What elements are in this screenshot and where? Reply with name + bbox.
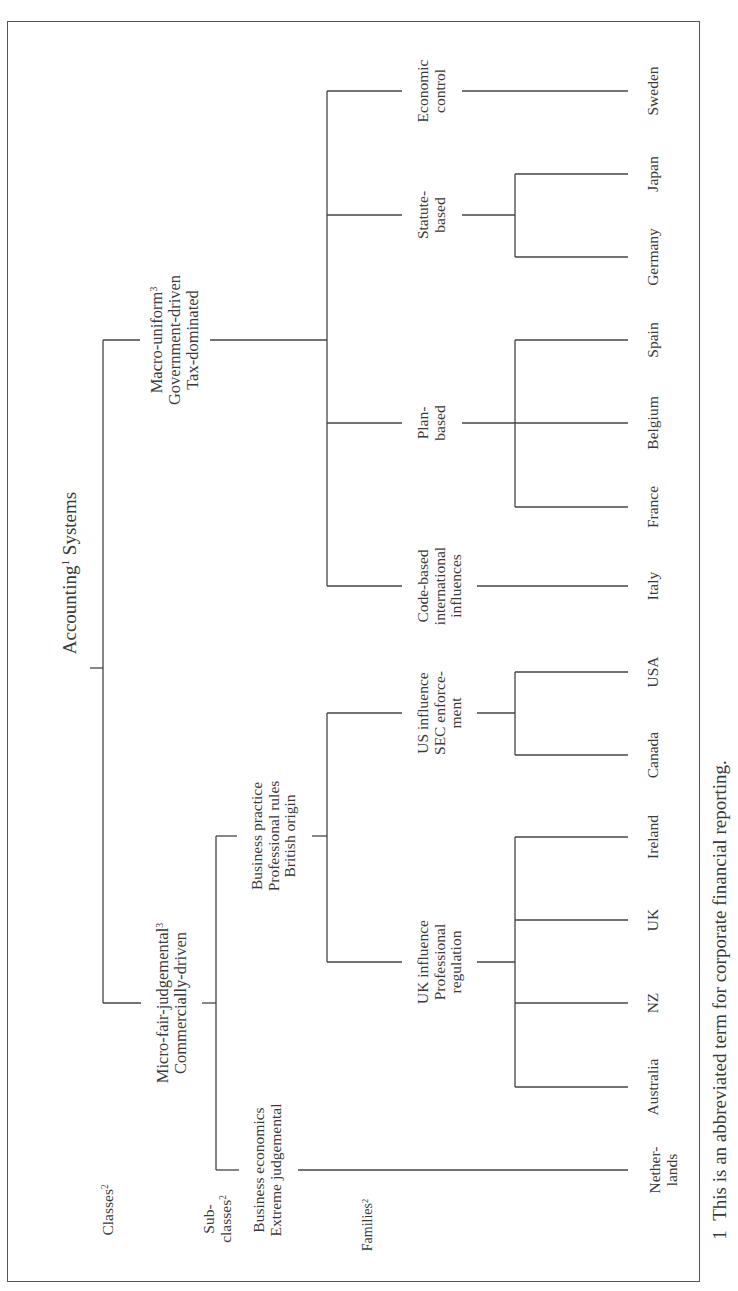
- country-leaf-nz: NZ: [645, 993, 662, 1014]
- country-leaf-germany: Germany: [645, 228, 662, 286]
- class-node-micro-fair-judgemental: Micro-fair-judgemental3 Commercially-dri…: [154, 923, 190, 1083]
- country-leaf-japan: Japan: [645, 156, 662, 191]
- root-node-accounting-systems: Accounting1 Systems: [60, 492, 81, 654]
- country-leaf-italy: Italy: [645, 572, 662, 600]
- country-leaf-ireland: Ireland: [645, 815, 662, 859]
- family-node-code-based: Code-based international influences: [415, 547, 465, 625]
- class-node-macro-uniform: Macro-uniform3 Government-driven Tax-dom…: [148, 275, 201, 405]
- country-leaf-uk: UK: [645, 909, 662, 931]
- tree-connector-lines: [0, 0, 738, 1291]
- country-leaf-netherlands: Nether- lands: [647, 1146, 680, 1193]
- accounting-systems-classification-diagram: Accounting1 Systems Classes2 Sub- classe…: [0, 0, 738, 1291]
- footnote-ref-1: 1: [59, 560, 71, 566]
- country-leaf-france: France: [645, 486, 662, 528]
- country-leaf-belgium: Belgium: [645, 396, 662, 449]
- level-label-subclasses: Sub- classes2: [201, 1195, 234, 1243]
- footnote-1: 1 This is an abbreviated term for corpor…: [710, 760, 731, 1240]
- root-label: Accounting: [59, 566, 80, 655]
- family-node-statute-based: Statute- based: [415, 191, 448, 239]
- country-leaf-sweden: Sweden: [645, 66, 662, 115]
- country-leaf-spain: Spain: [645, 322, 662, 357]
- family-node-uk-influence: UK influence Professional regulation: [415, 920, 465, 1004]
- subclass-node-business-practice: Business practice Professional rules Bri…: [249, 781, 299, 892]
- family-node-plan-based: Plan- based: [415, 405, 448, 440]
- footnote-number: 1: [709, 1230, 730, 1240]
- family-node-economic-control: Economic control: [415, 60, 448, 123]
- family-node-us-influence: US influence SEC enforce- ment: [415, 671, 465, 755]
- level-label-classes: Classes2: [100, 1184, 117, 1235]
- level-label-families: Families2: [360, 1199, 375, 1251]
- country-leaf-usa: USA: [645, 656, 662, 687]
- footnote-text: This is an abbreviated term for corporat…: [709, 760, 730, 1221]
- root-label-tail: Systems: [59, 492, 80, 560]
- country-leaf-canada: Canada: [645, 732, 662, 778]
- country-leaf-australia: Australia: [645, 1059, 662, 1116]
- subclass-node-business-economics: Business economics Extreme judgemental: [251, 1104, 284, 1237]
